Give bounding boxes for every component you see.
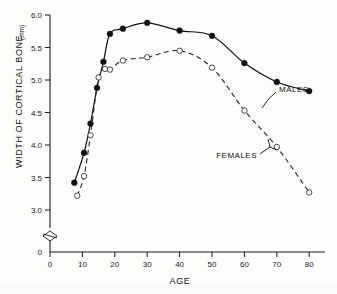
data-point-males-50 [209, 33, 215, 39]
data-point-males-70 [274, 79, 280, 85]
data-point-males-12.5 [88, 121, 94, 127]
data-point-females-60 [242, 108, 247, 113]
data-point-females-10.5 [81, 174, 86, 179]
data-point-females-22.5 [120, 58, 125, 63]
annotation-males: MALES [262, 85, 309, 108]
data-point-females-50 [209, 65, 214, 70]
y-tick-label-4.5: 4.5 [31, 109, 43, 118]
y-tick-label-6.0: 6.0 [31, 11, 43, 20]
data-point-males-14.5 [94, 85, 100, 91]
data-point-females-15 [96, 75, 101, 80]
page-edge-strip [0, 284, 337, 294]
series-data-points [71, 20, 312, 199]
data-point-females-18.5 [107, 67, 112, 72]
y-axis-break-icon [43, 231, 57, 241]
x-tick-label-40: 40 [175, 260, 184, 269]
data-point-males-60 [242, 60, 248, 66]
data-point-females-80 [307, 190, 312, 195]
figure-container: 6.0 5.5 5.0 4.5 4.0 3.5 3.0 0 WIDTH OF C… [0, 0, 337, 294]
y-axis: 6.0 5.5 5.0 4.5 4.0 3.5 3.0 0 WIDTH OF C… [14, 11, 57, 257]
data-point-females-8.4 [75, 193, 80, 198]
data-point-males-10.5 [81, 150, 87, 156]
y-tick-label-5.0: 5.0 [31, 76, 43, 85]
series-curves [74, 23, 309, 196]
y-axis-title: WIDTH OF CORTICAL BONE [14, 35, 24, 168]
y-tick-label-4.0: 4.0 [31, 141, 43, 150]
x-tick-label-20: 20 [110, 260, 119, 269]
x-tick-label-0: 0 [48, 260, 53, 269]
x-tick-label-30: 30 [143, 260, 152, 269]
males-label: MALES [279, 85, 309, 94]
data-point-males-18.5 [107, 31, 113, 37]
x-axis: 0 10 20 30 40 50 60 70 80 AGE [48, 252, 325, 286]
y-tick-label-3.5: 3.5 [31, 174, 43, 183]
annotation-females: FEMALES [216, 139, 277, 160]
trend-curve-males [74, 23, 309, 183]
y-axis-zero-label: 0 [38, 248, 43, 257]
data-point-females-30 [145, 55, 150, 60]
x-tick-marks [50, 252, 309, 257]
data-point-males-40 [177, 28, 183, 34]
data-point-females-12.5 [88, 133, 93, 138]
y-tick-label-5.5: 5.5 [31, 44, 43, 53]
y-axis-units: (mm) [18, 25, 26, 40]
data-point-females-40 [177, 48, 182, 53]
x-tick-label-80: 80 [305, 260, 314, 269]
y-tick-label-3.0: 3.0 [31, 206, 43, 215]
x-tick-label-60: 60 [240, 260, 249, 269]
x-tick-label-10: 10 [78, 260, 87, 269]
data-point-males-30 [144, 20, 150, 26]
y-tick-marks [45, 15, 50, 210]
trend-curve-females [77, 50, 309, 195]
bone-width-vs-age-chart: 6.0 5.5 5.0 4.5 4.0 3.5 3.0 0 WIDTH OF C… [0, 0, 337, 294]
x-tick-label-70: 70 [272, 260, 281, 269]
data-point-males-7.5 [71, 180, 77, 186]
data-point-males-22.5 [120, 26, 126, 32]
females-label: FEMALES [216, 151, 257, 160]
data-point-males-16.5 [101, 59, 107, 65]
x-tick-label-50: 50 [208, 260, 217, 269]
males-leader-line [262, 92, 276, 108]
